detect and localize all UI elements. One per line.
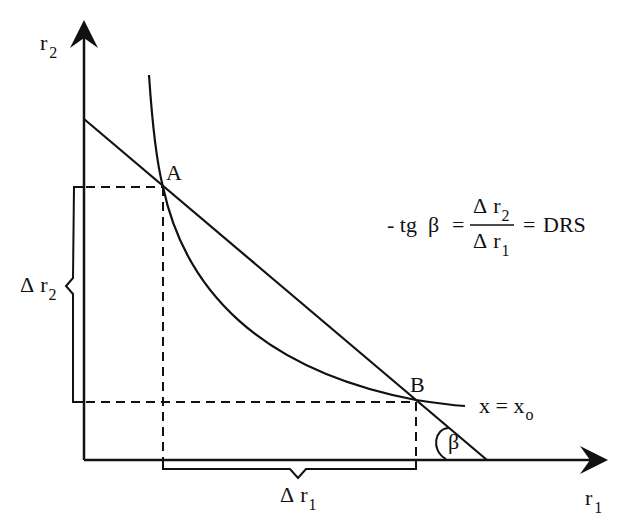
projection-lines: [86, 187, 416, 468]
x-axis-label: r1: [585, 485, 602, 516]
delta-r1-bracket: [163, 460, 416, 478]
secant-line: [84, 119, 487, 460]
angle-beta-label: β: [448, 429, 459, 454]
formula-eq2: =: [523, 212, 535, 237]
delta-r2-label: Δr2: [20, 272, 56, 303]
point-a-label: A: [166, 160, 182, 185]
formula-rhs: DRS: [543, 212, 586, 237]
formula-numerator: Δr2: [473, 193, 509, 224]
isoquant-label: x = xo: [479, 393, 533, 423]
formula-denominator: Δr1: [473, 228, 509, 259]
drs-formula: - tg β = Δr2 Δr1 = DRS: [387, 193, 586, 259]
delta-r2-bracket: [66, 187, 84, 402]
delta-r1-label: Δr1: [280, 482, 316, 513]
y-axis-label: r2: [40, 30, 57, 61]
point-b-label: B: [410, 372, 425, 397]
isoquant-curve: [149, 75, 465, 406]
isoquant-diagram: r2 r1 β A B x = xo Δr2 Δr1 - tg β = Δr2 …: [0, 0, 621, 525]
formula-lhs: - tg β: [387, 212, 439, 237]
formula-eq1: =: [452, 212, 464, 237]
